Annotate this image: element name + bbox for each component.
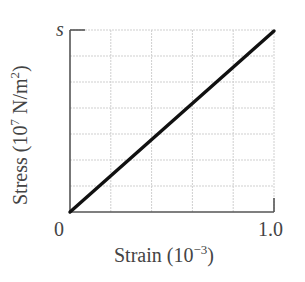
- x-origin-label: 0: [54, 218, 64, 240]
- x-max-label: 1.0: [258, 218, 283, 240]
- y-axis-title: Stress (107 N/m2): [7, 65, 32, 205]
- x-axis-title: Strain (10−3): [114, 242, 214, 267]
- y-max-label: s: [56, 18, 64, 40]
- data-line: [70, 31, 274, 212]
- stress-strain-chart: s 0 1.0 Strain (10−3) Stress (107 N/m2): [0, 0, 305, 282]
